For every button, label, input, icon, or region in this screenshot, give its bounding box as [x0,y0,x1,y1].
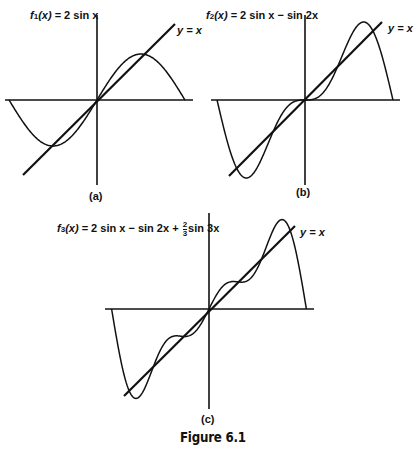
panel-a-line-label: y = x [177,24,202,36]
fraction-two-thirds: 23 [183,221,187,238]
panel-c-line-label: y = x [300,226,325,238]
panel-b-plot [211,15,400,185]
panel-a-plot [5,15,193,185]
panel-c-function-label: f3(x) = 2 sin x − sin 2x + 23sin 3x [57,221,219,238]
figure-caption: Figure 6.1 [180,429,246,445]
panel-b-tag: (b) [296,186,310,198]
panel-c-plot [105,213,314,409]
panel-a-function-label: f1(x) = 2 sin x [30,9,98,21]
panel-b-line-label: y = x [388,22,413,34]
panel-a-tag: (a) [89,190,102,202]
panel-b-function-label: f2(x) = 2 sin x − sin 2x [206,9,318,21]
panel-c-tag: (c) [201,413,214,425]
